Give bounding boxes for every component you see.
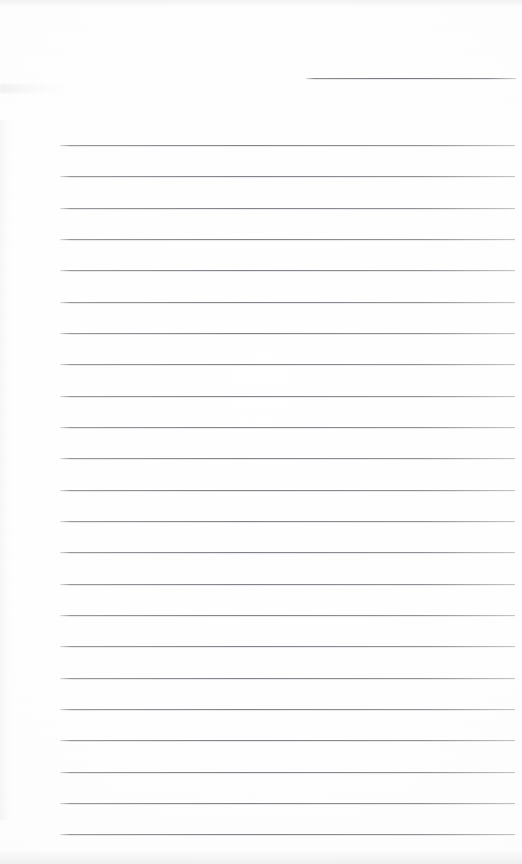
ruled-line [60,552,515,553]
ruled-line [60,709,515,710]
ruled-line [60,396,515,397]
ruled-line [60,458,515,459]
ruled-line [60,302,515,303]
ruled-line [60,772,515,773]
ruled-line [60,176,515,177]
ruled-line [60,239,515,240]
ruled-line [60,521,515,522]
scanned-page [0,0,522,864]
ruled-line [60,364,515,365]
ruled-line [60,584,515,585]
ruled-line [60,208,515,209]
ruled-line [60,646,515,647]
ruled-line [60,145,515,146]
ruled-line [60,333,515,334]
ruled-line [60,615,515,616]
ruled-line [60,427,515,428]
ruled-line [60,490,515,491]
ruled-line [60,678,515,679]
ruled-line [60,270,515,271]
ruled-line [60,803,515,804]
ruled-line [60,834,515,835]
paper-surface [0,0,522,864]
ruled-line [60,740,515,741]
ruled-line-short-top [306,78,516,79]
